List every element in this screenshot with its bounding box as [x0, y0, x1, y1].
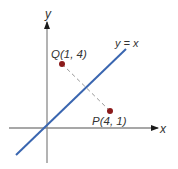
point-q-label: Q(1, 4) [51, 48, 87, 60]
reflection-diagram: y x y = x Q(1, 4) P(4, 1) [0, 0, 178, 169]
x-axis-label: x [159, 122, 167, 136]
point-q [59, 61, 65, 67]
line-label: y = x [114, 37, 139, 49]
point-p-label: P(4, 1) [92, 115, 127, 127]
point-p [107, 108, 113, 114]
y-axis-label: y [44, 7, 52, 21]
line-y-equals-x [16, 49, 126, 155]
